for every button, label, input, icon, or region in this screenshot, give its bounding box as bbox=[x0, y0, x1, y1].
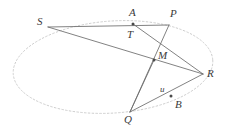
point-label-m: M bbox=[158, 50, 167, 61]
segment-m-q bbox=[130, 60, 154, 112]
point-label-q: Q bbox=[124, 114, 132, 125]
point-label-a: A bbox=[129, 7, 136, 18]
point-label-r: R bbox=[207, 68, 214, 79]
chord-q-r bbox=[130, 74, 203, 112]
segment-t-r bbox=[133, 24, 203, 74]
chord-s-r bbox=[48, 27, 203, 74]
point-label-u: u bbox=[160, 85, 165, 94]
point-label-p: P bbox=[170, 8, 177, 19]
point-label-t: T bbox=[127, 29, 133, 40]
point-marker-a bbox=[132, 23, 135, 26]
ellipse-layer bbox=[10, 14, 216, 120]
chord-s-p bbox=[48, 25, 169, 27]
point-label-b: B bbox=[175, 99, 182, 110]
point-marker-m bbox=[153, 59, 156, 62]
geometry-figure: SATPMRuBQ bbox=[0, 0, 226, 133]
point-marker-u bbox=[170, 95, 173, 98]
conic-ellipse bbox=[10, 14, 216, 120]
point-label-s: S bbox=[37, 16, 43, 27]
figure-canvas bbox=[0, 0, 226, 133]
